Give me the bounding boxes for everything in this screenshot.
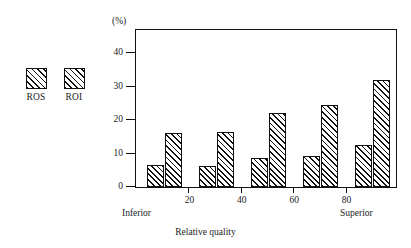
y-axis-tick-label: 20 (114, 113, 124, 125)
bar-roi-2 (217, 132, 234, 187)
legend-label: ROS (20, 91, 52, 103)
x-axis-tick-label: 80 (342, 194, 352, 206)
y-axis-tick: 20 (126, 119, 136, 120)
legend-label: ROI (58, 91, 90, 103)
x-axis-tick: 40 (241, 187, 242, 193)
bar-chart: (%) 0 10 20 30 40 20 40 60 80 (113, 18, 399, 190)
chart-legend: ROS ROI (18, 68, 98, 114)
y-axis-tick: 10 (126, 153, 136, 154)
y-axis-tick-label: 30 (114, 80, 124, 92)
y-axis-tick: 0 (126, 186, 136, 187)
x-axis-low-end-label: Inferior (122, 207, 151, 219)
y-axis-tick: 40 (126, 52, 136, 53)
x-axis-tick: 20 (188, 187, 189, 193)
bar-roi-5 (373, 80, 390, 187)
legend-entry-roi: ROI (58, 68, 90, 103)
x-axis-tick-label: 60 (289, 194, 299, 206)
x-axis-tick-label: 20 (185, 194, 195, 206)
bar-ros-2 (199, 166, 216, 187)
x-axis-high-end-label: Superior (340, 207, 373, 219)
y-axis-tick-label: 40 (114, 46, 124, 58)
y-axis-unit-label: (%) (112, 16, 126, 26)
bar-ros-5 (355, 145, 372, 187)
x-axis-title: Relative quality (0, 226, 411, 238)
x-axis-tick: 80 (346, 187, 347, 193)
x-axis-tick: 60 (293, 187, 294, 193)
legend-entry-ros: ROS (20, 68, 52, 103)
bar-ros-4 (303, 156, 320, 187)
y-axis-tick-label: 0 (118, 180, 123, 192)
x-axis-tick-label: 40 (237, 194, 247, 206)
bar-roi-1 (165, 133, 182, 187)
y-axis-tick-label: 10 (114, 147, 124, 159)
y-axis-tick: 30 (126, 86, 136, 87)
diagonal-hatch-swatch-icon (64, 68, 85, 89)
diagonal-hatch-swatch-icon (26, 68, 47, 89)
bar-ros-3 (251, 158, 268, 187)
plot-frame: 0 10 20 30 40 20 40 60 80 (135, 29, 397, 188)
bar-roi-3 (269, 113, 286, 187)
bar-ros-1 (147, 165, 164, 187)
bar-roi-4 (321, 105, 338, 187)
